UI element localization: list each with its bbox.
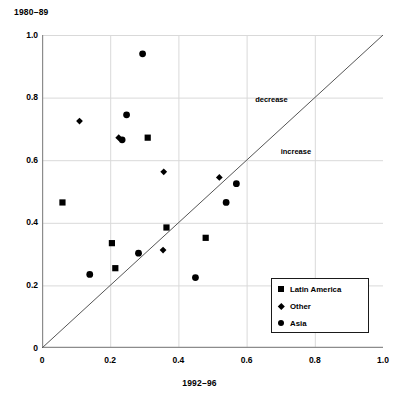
square-marker-icon (272, 281, 290, 297)
data-point-asia (139, 50, 146, 57)
legend-label-asia: Asia (290, 319, 306, 328)
x-tick-label: 0.2 (90, 356, 130, 365)
data-point-other (76, 118, 83, 125)
increase-label: increase (281, 147, 311, 156)
y-tick-label: 0 (4, 344, 38, 353)
legend-entry-latin-america: Latin America (272, 281, 370, 297)
data-point-latin-america (109, 240, 115, 246)
data-point-asia (86, 271, 93, 278)
y-tick-label: 0.2 (4, 281, 38, 290)
data-point-asia (223, 199, 230, 206)
x-tick-label: 0.6 (227, 356, 267, 365)
data-point-asia (233, 180, 240, 187)
x-tick-label: 0.8 (295, 356, 335, 365)
x-axis-tick-labels: 00.20.40.60.81.0 (0, 356, 399, 370)
legend-box: Latin America Other Asia (271, 278, 369, 333)
legend-label-latin-america: Latin America (290, 285, 341, 294)
y-tick-label: 0.8 (4, 93, 38, 102)
circle-marker-icon (272, 315, 290, 331)
data-point-asia (135, 250, 142, 257)
data-point-other (160, 168, 167, 175)
legend-label-other: Other (290, 302, 311, 311)
scatter-plot-figure: 1980–89 00.20.40.60.81.0 00.20.40.60.81.… (0, 0, 399, 402)
diamond-marker-icon (272, 298, 290, 314)
x-tick-label: 0 (22, 356, 62, 365)
x-tick-label: 0.4 (158, 356, 198, 365)
data-point-asia (119, 136, 126, 143)
data-point-latin-america (59, 199, 65, 205)
data-point-latin-america (145, 135, 151, 141)
data-point-latin-america (112, 265, 118, 271)
y-tick-label: 0.4 (4, 218, 38, 227)
legend-entry-other: Other (272, 298, 370, 314)
data-point-latin-america (163, 224, 169, 230)
data-point-asia (192, 274, 199, 281)
y-tick-label: 0.6 (4, 156, 38, 165)
data-point-other (160, 247, 167, 254)
data-point-other (216, 174, 223, 181)
decrease-label: decrease (255, 95, 288, 104)
data-markers (59, 50, 239, 281)
y-axis-tick-labels: 00.20.40.60.81.0 (0, 0, 38, 402)
x-axis-title: 1992–96 (0, 378, 399, 388)
x-tick-label: 1.0 (363, 356, 399, 365)
data-point-asia (123, 111, 130, 118)
y-tick-label: 1.0 (4, 31, 38, 40)
legend-entry-asia: Asia (272, 315, 370, 331)
data-point-latin-america (203, 235, 209, 241)
